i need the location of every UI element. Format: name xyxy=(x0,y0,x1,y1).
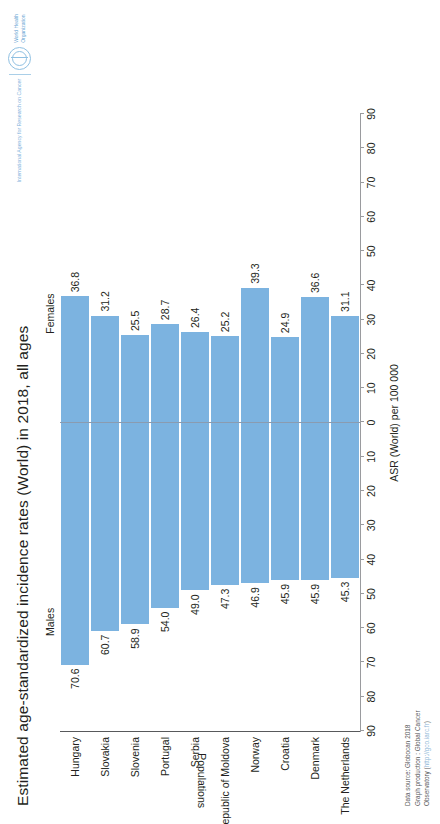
category-axis-title: Populations xyxy=(196,753,208,808)
axis-tick xyxy=(360,696,364,697)
axis-tick-label: 50 xyxy=(365,245,377,257)
axis-tick xyxy=(360,559,364,560)
logo-divider xyxy=(9,74,31,75)
axis-tick xyxy=(360,250,364,251)
category-label: Slovenia xyxy=(129,737,141,777)
axis-tick-label: 40 xyxy=(365,554,377,566)
axis-tick-label: 60 xyxy=(365,211,377,223)
axis-tick xyxy=(360,216,364,217)
bar-female[interactable] xyxy=(91,316,119,423)
category-label: Slovakia xyxy=(99,737,111,777)
bar-value-male: 45.3 xyxy=(339,582,351,602)
axis-tick-label: 10 xyxy=(365,451,377,463)
bar-value-female: 28.7 xyxy=(159,300,171,320)
axis-tick-label: 90 xyxy=(365,725,377,737)
bar-female[interactable] xyxy=(301,297,329,422)
axis-tick xyxy=(360,147,364,148)
axis-tick xyxy=(360,661,364,662)
page-title: Estimated age-standardized incidence rat… xyxy=(14,326,32,806)
bar-value-female: 24.9 xyxy=(279,313,291,333)
bar-female[interactable] xyxy=(151,324,179,422)
axis-tick-label: 50 xyxy=(365,588,377,600)
axis-tick xyxy=(360,284,364,285)
bar-female[interactable] xyxy=(121,335,149,422)
bar-value-female: 31.2 xyxy=(99,291,111,311)
bar-male[interactable] xyxy=(241,423,269,584)
footer-observatory-prefix: Observatory ( xyxy=(423,767,430,806)
axis-tick xyxy=(360,524,364,525)
axis-tick-label: 80 xyxy=(365,691,377,703)
category-label: Norway xyxy=(249,737,261,773)
bar-value-male: 45.9 xyxy=(309,584,321,604)
bar-male[interactable] xyxy=(331,423,359,578)
footer-line-2: Graph production : Global Cancer xyxy=(413,710,423,806)
bar-row: Portugal54.028.7 xyxy=(150,114,180,731)
bar-value-female: 25.5 xyxy=(129,311,141,331)
axis-tick-label: 10 xyxy=(365,382,377,394)
series-caption-males: Males xyxy=(44,608,56,636)
axis-tick xyxy=(360,387,364,388)
bar-male[interactable] xyxy=(61,423,89,665)
axis-tick-label: 20 xyxy=(365,348,377,360)
axis-tick xyxy=(360,490,364,491)
category-label: Denmark xyxy=(309,737,321,780)
axis-tick-label: 70 xyxy=(365,177,377,189)
footer-link[interactable]: http://gco.iarc.fr xyxy=(423,723,430,767)
bar-value-female: 36.6 xyxy=(309,273,321,293)
bar-male[interactable] xyxy=(211,423,239,585)
axis-tick xyxy=(360,456,364,457)
category-axis-spine xyxy=(60,731,360,732)
bar-value-male: 70.6 xyxy=(69,669,81,689)
bar-male[interactable] xyxy=(271,423,299,580)
bar-rows: Hungary70.636.8Slovakia60.731.2Slovenia5… xyxy=(60,114,360,731)
who-logo-text: World Health Organization xyxy=(13,14,26,43)
bar-male[interactable] xyxy=(181,423,209,591)
bar-row: Denmark45.936.6 xyxy=(300,114,330,731)
who-logo-line2: Organization xyxy=(20,14,27,43)
category-label: Republic of Moldova xyxy=(219,737,231,824)
chart-figure: Estimated age-standardized incidence rat… xyxy=(0,0,440,824)
footer-line-1: Data source: Globocan 2018 xyxy=(403,710,413,806)
axis-tick xyxy=(360,353,364,354)
axis-tick-label: 60 xyxy=(365,622,377,634)
bar-female[interactable] xyxy=(61,296,89,422)
bar-row: Slovakia60.731.2 xyxy=(90,114,120,731)
who-logo-line1: World Health xyxy=(13,14,20,43)
axis-tick xyxy=(360,730,364,731)
axis-tick xyxy=(360,593,364,594)
axis-tick xyxy=(360,422,364,423)
category-label: Portugal xyxy=(159,737,171,776)
bar-value-male: 49.0 xyxy=(189,594,201,614)
iarc-logo-text: International Agency for Research on Can… xyxy=(16,79,23,183)
who-globe-icon xyxy=(8,47,31,70)
bar-female[interactable] xyxy=(331,316,359,423)
bar-value-male: 46.9 xyxy=(249,587,261,607)
bar-value-female: 31.1 xyxy=(339,291,351,311)
bar-female[interactable] xyxy=(271,337,299,422)
bar-value-female: 36.8 xyxy=(69,272,81,292)
bar-male[interactable] xyxy=(91,423,119,631)
axis-tick-label: 20 xyxy=(365,485,377,497)
bar-value-female: 39.3 xyxy=(249,263,261,283)
bar-row: Slovenia58.925.5 xyxy=(120,114,150,731)
bar-male[interactable] xyxy=(301,423,329,580)
axis-tick-label: 40 xyxy=(365,280,377,292)
bar-female[interactable] xyxy=(181,332,209,422)
iarc-who-logo: International Agency for Research on Can… xyxy=(8,14,31,182)
axis-tick xyxy=(360,113,364,114)
bar-female[interactable] xyxy=(211,336,239,422)
footer-observatory-suffix: ) xyxy=(423,721,430,723)
axis-tick-label: 80 xyxy=(365,142,377,154)
bar-row: Hungary70.636.8 xyxy=(60,114,90,731)
bar-male[interactable] xyxy=(151,423,179,608)
axis-tick xyxy=(360,319,364,320)
axis-tick-label: 0 xyxy=(365,420,377,426)
footer-line-3: Observatory (http://gco.iarc.fr) xyxy=(422,710,432,806)
bar-female[interactable] xyxy=(241,288,269,423)
bar-value-male: 58.9 xyxy=(129,628,141,648)
axis-tick xyxy=(360,182,364,183)
bar-male[interactable] xyxy=(121,423,149,625)
category-label: Croatia xyxy=(279,737,291,771)
bar-value-male: 60.7 xyxy=(99,635,111,655)
category-label: Hungary xyxy=(69,737,81,777)
